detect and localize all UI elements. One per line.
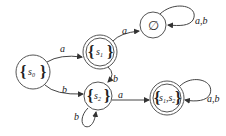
dfa-diagram: { s0 } { s1 } ∅ { s2 } { s1,s2 } a b a b [0, 0, 226, 136]
state-s1-open-brace: { [88, 43, 94, 60]
edge-s1-s2 [108, 67, 112, 82]
state-empty: ∅ [140, 12, 166, 38]
edge-s1-empty-label: a [122, 25, 127, 36]
edge-s0-s1 [47, 56, 82, 62]
empty-set-symbol: ∅ [148, 18, 159, 33]
edge-s2-loop [82, 108, 96, 127]
edge-s2-loop-label: b [74, 111, 79, 122]
edge-s2-s1s2-label: a [118, 89, 123, 100]
edge-s0-s2-label: b [62, 84, 67, 95]
state-s1s2-close-brace: } [175, 89, 181, 106]
state-s0: { s0 } [16, 55, 50, 89]
state-s0-close-brace: } [40, 63, 46, 80]
state-s0-name: s0 [28, 66, 35, 78]
state-s2: { s2 } [84, 82, 112, 110]
edge-s1-s2-label: b [113, 73, 118, 84]
edge-s1s2-loop-label: a,b [207, 93, 220, 104]
edge-empty-loop [160, 6, 194, 25]
state-s2-open-brace: { [87, 87, 93, 104]
edge-s0-s1-label: a [60, 43, 65, 54]
state-s1s2-name: s1,s2 [159, 92, 175, 104]
state-s1: { s1 } [83, 35, 117, 69]
state-s2-name: s2 [94, 90, 101, 102]
state-s1-close-brace: } [107, 43, 113, 60]
state-s1s2: { s1,s2 } [150, 81, 184, 115]
state-s2-close-brace: } [104, 87, 110, 104]
state-s0-open-brace: { [20, 63, 26, 80]
edge-empty-loop-label: a,b [195, 15, 208, 26]
state-s1-name: s1 [96, 46, 103, 58]
